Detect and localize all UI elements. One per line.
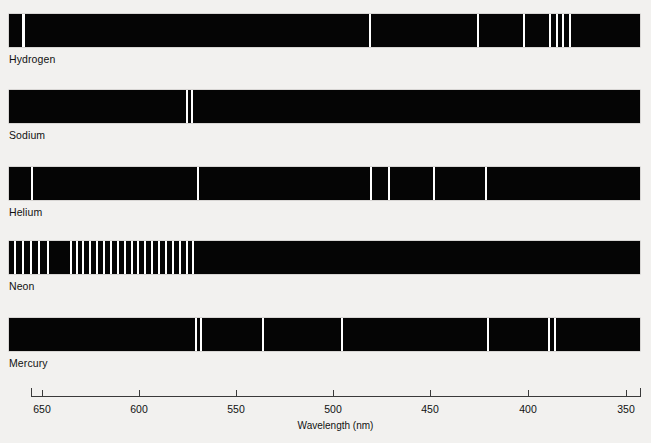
axis-tick-label: 550 <box>227 403 245 415</box>
axis-tick <box>333 390 334 397</box>
axis-tick <box>139 390 140 397</box>
axis-tick-label: 600 <box>130 403 148 415</box>
axis-tick-label: 450 <box>421 403 439 415</box>
axis-title: Wavelength (nm) <box>298 420 374 431</box>
emission-spectra-figure: HydrogenSodiumHeliumNeonMercury 65060055… <box>0 0 651 443</box>
axis-tick <box>236 390 237 397</box>
axis-tick <box>430 390 431 397</box>
axis-tick-label: 400 <box>519 403 537 415</box>
axis-endcap-left <box>31 388 32 397</box>
axis-tick-label: 500 <box>324 403 342 415</box>
axis-tick-label: 350 <box>617 403 635 415</box>
wavelength-axis: 650600550500450400350Wavelength (nm) <box>0 0 651 443</box>
axis-line <box>31 396 640 397</box>
axis-tick <box>42 390 43 397</box>
axis-tick-label: 650 <box>33 403 51 415</box>
axis-endcap-right <box>640 388 641 397</box>
axis-tick <box>528 390 529 397</box>
axis-tick <box>626 390 627 397</box>
